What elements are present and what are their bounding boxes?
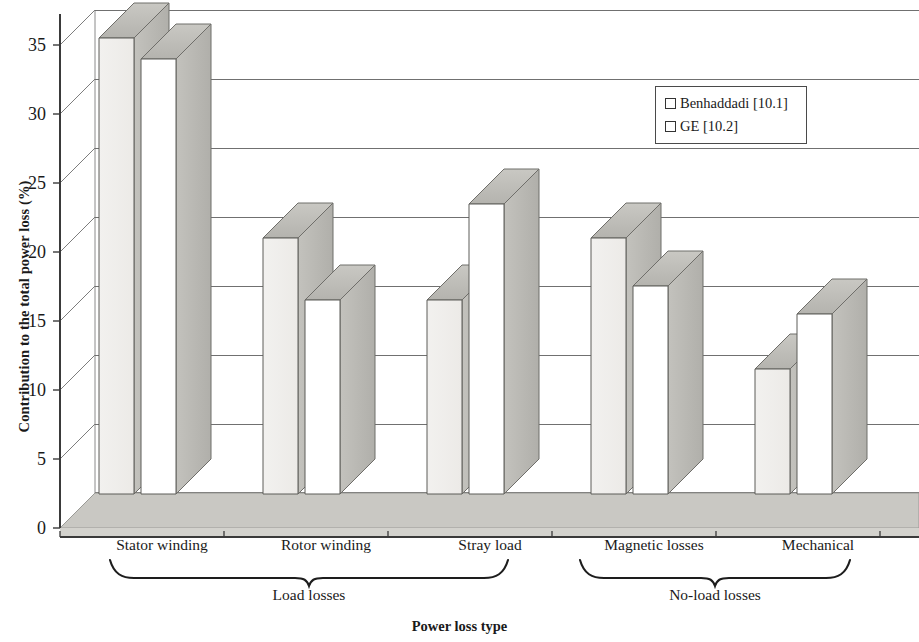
legend-label-benhaddadi: Benhaddadi [10.1] <box>680 95 788 112</box>
y-tick-label-35: 35 <box>10 36 46 54</box>
x-category-label-stray-load: Stray load <box>400 536 580 554</box>
chart-legend: Benhaddadi [10.1] GE [10.2] <box>655 86 807 144</box>
group-label-no-load-losses: No-load losses <box>625 586 805 604</box>
y-axis-title: Contribution to the total power loss (%) <box>16 107 33 507</box>
group-label-load-losses: Load losses <box>219 586 399 604</box>
y-tick-label-25: 25 <box>10 174 46 192</box>
legend-entry-ge: GE [10.2] <box>665 115 806 138</box>
legend-label-ge: GE [10.2] <box>680 118 738 135</box>
bar-rotor-winding-ge <box>305 265 375 494</box>
y-tick-label-15: 15 <box>10 312 46 330</box>
y-tick-label-5: 5 <box>10 450 46 468</box>
legend-swatch-icon-benhaddadi <box>665 98 676 109</box>
y-tick-label-10: 10 <box>10 381 46 399</box>
bar-magnetic-losses-ge <box>633 251 703 494</box>
brace-load-losses <box>110 560 508 586</box>
x-category-label-magnetic-losses: Magnetic losses <box>564 536 744 554</box>
x-axis-title: Power loss type <box>0 618 919 635</box>
y-tick-label-20: 20 <box>10 243 46 261</box>
x-category-label-rotor-winding: Rotor winding <box>236 536 416 554</box>
y-tick-label-0: 0 <box>10 519 46 537</box>
y-tick-label-30: 30 <box>10 105 46 123</box>
legend-swatch-icon-ge <box>665 121 676 132</box>
x-category-label-mechanical: Mechanical <box>728 536 908 554</box>
bar-chart-figure: Contribution to the total power loss (%)… <box>0 0 919 642</box>
bar-mechanical-ge <box>797 279 867 494</box>
bar-stator-winding-ge <box>141 24 211 494</box>
bar-stray-load-ge <box>469 169 539 494</box>
legend-entry-benhaddadi: Benhaddadi [10.1] <box>665 92 806 115</box>
x-category-label-stator-winding: Stator winding <box>72 536 252 554</box>
brace-no-load-losses <box>580 560 850 586</box>
